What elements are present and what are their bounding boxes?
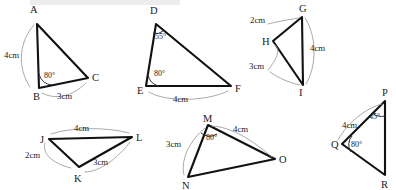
angle-label-d: 55° [155, 32, 166, 41]
vertex-label-f: F [235, 83, 241, 94]
vertex-label-o: O [279, 154, 287, 165]
triangle-jkl: J K L 4cm 2cm 3cm [25, 123, 142, 184]
vertex-label-g: G [299, 3, 307, 14]
angle-label-m: 80° [206, 133, 217, 142]
vertex-label-r: R [381, 179, 388, 190]
side-label-ef: 4cm [173, 94, 188, 104]
leader-ghi-3cm [268, 44, 278, 70]
triangle-mno-outline [188, 125, 275, 177]
vertex-label-p: P [382, 87, 388, 98]
vertex-label-b: B [33, 91, 40, 102]
angle-label-b: 80° [44, 71, 55, 80]
side-label-ab: 4cm [4, 50, 19, 60]
vertex-label-i: I [299, 87, 303, 98]
vertex-label-d: D [150, 5, 158, 16]
side-label-jk: 2cm [25, 150, 40, 160]
side-label-gh: 2cm [250, 15, 265, 25]
triangle-pqr: P Q R 4cm 45° 80° [331, 87, 388, 190]
vertex-label-l: L [136, 132, 142, 143]
leader-abc-4cm [21, 25, 34, 87]
vertex-label-k: K [74, 173, 82, 184]
side-label-jl: 4cm [74, 123, 89, 133]
triangle-def: D E F 4cm 55° 80° [137, 5, 241, 104]
side-label-mn: 3cm [166, 139, 181, 149]
leader-jkl-4cm [51, 129, 129, 134]
side-label-gi: 4cm [310, 43, 325, 53]
leader-def-4cm [149, 91, 228, 99]
side-label-mo: 4cm [233, 124, 248, 134]
triangle-mno: M N O 3cm 4cm 80° [166, 113, 287, 190]
figure-canvas: A B C 4cm 3cm 80° D E F 4cm 55° 80° [0, 0, 396, 190]
vertex-label-q: Q [331, 139, 339, 150]
vertex-label-c: C [92, 72, 99, 83]
triangle-jkl-outline [49, 137, 132, 167]
vertex-label-m: M [203, 113, 213, 124]
side-label-pq: 4cm [342, 120, 357, 130]
triangle-ghi: G H I 2cm 4cm 3cm [249, 3, 325, 98]
side-label-kl: 3cm [93, 157, 108, 167]
vertex-label-n: N [182, 180, 190, 190]
leader-mno-3cm [183, 128, 205, 175]
vertex-label-j: J [40, 134, 44, 145]
angle-label-p: 45° [369, 112, 380, 121]
side-label-hi: 3cm [249, 61, 264, 71]
triangle-abc: A B C 4cm 3cm 80° [4, 4, 99, 102]
vertex-label-a: A [30, 4, 38, 15]
side-label-bc: 3cm [57, 91, 72, 101]
vertex-label-h: H [262, 36, 270, 47]
geometry-figure: A B C 4cm 3cm 80° D E F 4cm 55° 80° [0, 0, 396, 190]
angle-label-e: 80° [154, 69, 165, 78]
vertex-label-e: E [137, 85, 143, 96]
angle-label-q: 80° [351, 140, 362, 149]
